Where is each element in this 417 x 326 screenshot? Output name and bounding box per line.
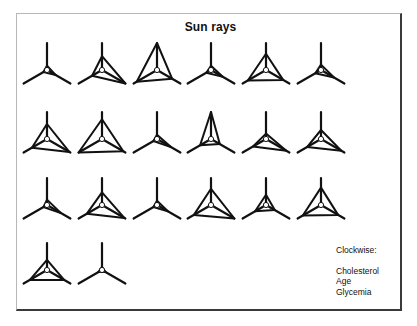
sun-ray-glyph xyxy=(298,43,345,84)
ray xyxy=(47,70,70,84)
sun-ray-glyph xyxy=(134,178,181,219)
sun-ray-glyph xyxy=(79,243,126,284)
center-circle xyxy=(44,267,49,272)
sun-ray-glyph xyxy=(298,112,345,153)
sun-ray-glyph xyxy=(134,43,181,84)
sun-ray-glyph xyxy=(243,43,290,84)
center-circle xyxy=(208,136,213,141)
sun-ray-glyph xyxy=(243,112,290,153)
legend: Clockwise: Cholesterol Age Glycemia xyxy=(336,245,379,297)
center-circle xyxy=(154,67,159,72)
center-circle xyxy=(44,67,49,72)
sun-ray-glyph xyxy=(24,112,71,153)
ray xyxy=(211,139,234,153)
sun-ray-glyph xyxy=(24,243,71,284)
legend-header: Clockwise: xyxy=(336,245,379,256)
center-circle xyxy=(318,136,323,141)
center-circle xyxy=(44,136,49,141)
center-circle xyxy=(208,67,213,72)
sun-ray-glyph xyxy=(298,178,345,219)
ray xyxy=(266,205,289,219)
legend-item-cholesterol: Cholesterol xyxy=(336,266,379,277)
sun-ray-glyph xyxy=(243,178,290,219)
center-circle xyxy=(154,136,159,141)
sun-ray-glyph xyxy=(134,112,181,153)
center-circle xyxy=(99,136,104,141)
center-circle xyxy=(99,202,104,207)
center-circle xyxy=(44,202,49,207)
ray xyxy=(79,139,102,153)
center-circle xyxy=(99,67,104,72)
sun-ray-glyph xyxy=(188,178,235,219)
sun-ray-glyph xyxy=(24,178,71,219)
sun-ray-glyph xyxy=(188,43,235,84)
ray xyxy=(79,205,102,219)
sun-ray-glyph xyxy=(24,43,71,84)
center-circle xyxy=(154,202,159,207)
center-circle xyxy=(208,202,213,207)
center-circle xyxy=(318,67,323,72)
center-circle xyxy=(99,267,104,272)
center-circle xyxy=(263,136,268,141)
ray xyxy=(298,70,321,84)
center-circle xyxy=(318,202,323,207)
legend-item-glycemia: Glycemia xyxy=(336,287,379,298)
center-circle xyxy=(263,67,268,72)
sun-ray-glyph xyxy=(188,112,235,153)
legend-item-age: Age xyxy=(336,276,379,287)
sun-ray-glyph xyxy=(79,112,126,153)
sun-ray-glyph xyxy=(79,178,126,219)
center-circle xyxy=(263,202,268,207)
sun-ray-glyph xyxy=(79,43,126,84)
